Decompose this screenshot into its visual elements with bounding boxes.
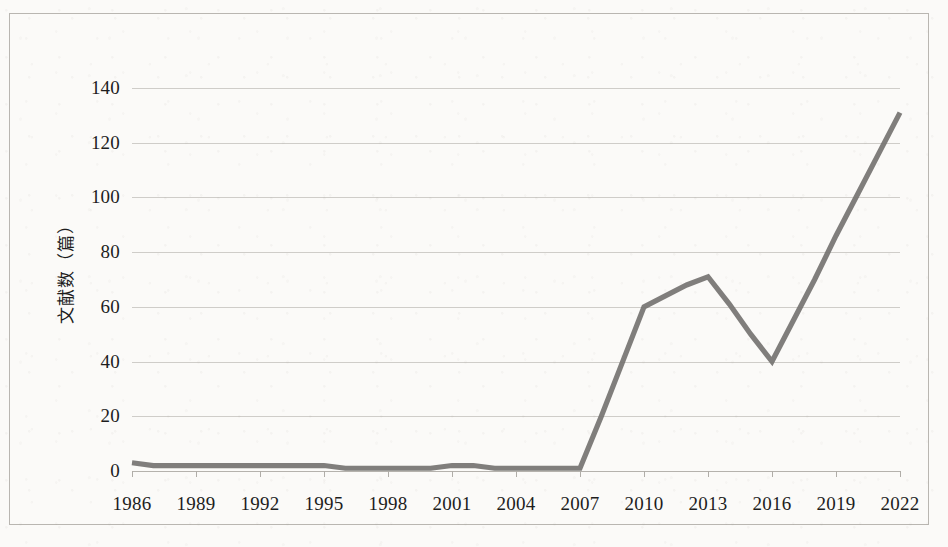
- y-axis-tick-label: 0: [110, 460, 120, 482]
- x-axis-tick-label: 2013: [689, 493, 728, 515]
- x-axis-tick-label: 2010: [625, 493, 664, 515]
- x-axis-tick-label: 1995: [305, 493, 344, 515]
- x-axis-tick-label: 2019: [817, 493, 856, 515]
- x-axis-tick: [900, 471, 901, 477]
- line-series-path: [132, 113, 900, 469]
- x-axis-tick-label: 2016: [753, 493, 792, 515]
- y-axis-tick-label: 20: [101, 405, 120, 427]
- x-axis-tick: [708, 471, 709, 477]
- x-axis-tick: [388, 471, 389, 477]
- x-axis-tick: [260, 471, 261, 477]
- plot-area: 020406080100120140 198619891992199519982…: [132, 88, 900, 471]
- x-axis-tick: [836, 471, 837, 477]
- y-axis-tick-label: 80: [101, 241, 120, 263]
- y-axis-tick-label: 60: [101, 296, 120, 318]
- y-axis-tick-label: 120: [91, 132, 120, 154]
- x-axis-tick-label: 2022: [881, 493, 920, 515]
- x-axis-tick: [324, 471, 325, 477]
- x-axis-tick: [772, 471, 773, 477]
- x-axis-tick-label: 2007: [561, 493, 600, 515]
- x-axis-tick: [644, 471, 645, 477]
- y-axis-title: 文献数（篇）: [52, 216, 77, 324]
- x-axis-tick-label: 1989: [177, 493, 216, 515]
- x-axis-tick: [580, 471, 581, 477]
- x-axis-tick: [516, 471, 517, 477]
- y-axis-tick-label: 40: [101, 351, 120, 373]
- x-axis-tick: [452, 471, 453, 477]
- y-axis-tick-label: 100: [91, 186, 120, 208]
- line-series-chart: [132, 88, 900, 471]
- y-axis-tick-label: 140: [91, 77, 120, 99]
- x-axis-tick-label: 1986: [113, 493, 152, 515]
- x-axis-tick: [196, 471, 197, 477]
- x-axis-tick-label: 2001: [433, 493, 472, 515]
- x-axis-tick-label: 2004: [497, 493, 536, 515]
- x-axis-tick-label: 1998: [369, 493, 408, 515]
- chart-frame: 文献数（篇） 020406080100120140 19861989199219…: [9, 13, 929, 525]
- x-axis-tick-label: 1992: [241, 493, 280, 515]
- x-axis-tick: [132, 471, 133, 477]
